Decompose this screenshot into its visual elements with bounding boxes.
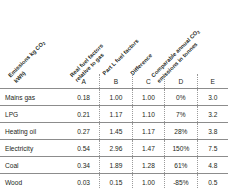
column-letter-b: B [100, 74, 132, 89]
cell-c: 1.28 [132, 157, 164, 174]
row-label: Heating oil [0, 123, 68, 140]
table-row: Electricity 0.54 2.96 1.47 150% 7.5 [0, 140, 228, 157]
cell-d: 0% [165, 89, 197, 106]
cell-c: 1.17 [132, 123, 164, 140]
table-row: Mains gas 0.18 1.00 1.00 0% 3.0 [0, 89, 228, 106]
cell-d: 28% [165, 123, 197, 140]
column-letter-a: A [68, 74, 100, 89]
cell-c: 1.47 [132, 140, 164, 157]
table-row: Wood 0.03 0.15 1.00 -85% 0.5 [0, 174, 228, 190]
cell-b: 1.00 [100, 89, 132, 106]
cell-b: 1.17 [100, 106, 132, 123]
cell-b: 1.45 [100, 123, 132, 140]
cell-a: 0.54 [68, 140, 100, 157]
cell-d: -85% [165, 174, 197, 190]
cell-c: 1.00 [132, 89, 164, 106]
cell-a: 0.18 [68, 89, 100, 106]
row-label: Coal [0, 157, 68, 174]
data-table: A B C D E Mains gas 0.18 1.00 1.00 0% 3.… [0, 74, 228, 189]
cell-b: 1.89 [100, 157, 132, 174]
cell-d: 7% [165, 106, 197, 123]
column-header-e-line1: Comparable annual CO [150, 30, 199, 79]
cell-a: 0.03 [68, 174, 100, 190]
rotated-column-headers: Emissions kg CO2 kWh) Real fuel factors … [0, 0, 228, 76]
column-letter-c: C [132, 74, 164, 89]
table-row: LPG 0.21 1.17 1.10 7% 3.2 [0, 106, 228, 123]
row-label: Wood [0, 174, 68, 190]
cell-c: 1.10 [132, 106, 164, 123]
row-label: Mains gas [0, 89, 68, 106]
table-row: Coal 0.34 1.89 1.28 61% 4.8 [0, 157, 228, 174]
cell-d: 61% [165, 157, 197, 174]
column-letter-blank [0, 74, 68, 89]
table-body: Mains gas 0.18 1.00 1.00 0% 3.0 LPG 0.21… [0, 89, 228, 190]
cell-d: 150% [165, 140, 197, 157]
column-letter-e: E [197, 74, 228, 89]
table-head: A B C D E [0, 74, 228, 89]
column-letter-d: D [165, 74, 197, 89]
cell-a: 0.34 [68, 157, 100, 174]
table-row: Heating oil 0.27 1.45 1.17 28% 3.8 [0, 123, 228, 140]
cell-e: 0.5 [197, 174, 228, 190]
cell-a: 0.27 [68, 123, 100, 140]
cell-e: 3.2 [197, 106, 228, 123]
column-letter-row: A B C D E [0, 74, 228, 89]
cell-b: 0.15 [100, 174, 132, 190]
cell-e: 4.8 [197, 157, 228, 174]
cell-e: 3.0 [197, 89, 228, 106]
cell-b: 2.96 [100, 140, 132, 157]
cell-a: 0.21 [68, 106, 100, 123]
row-label: LPG [0, 106, 68, 123]
row-label: Electricity [0, 140, 68, 157]
cell-e: 3.8 [197, 123, 228, 140]
cell-e: 7.5 [197, 140, 228, 157]
emissions-fuel-factors-table: Emissions kg CO2 kWh) Real fuel factors … [0, 0, 228, 189]
cell-c: 1.00 [132, 174, 164, 190]
